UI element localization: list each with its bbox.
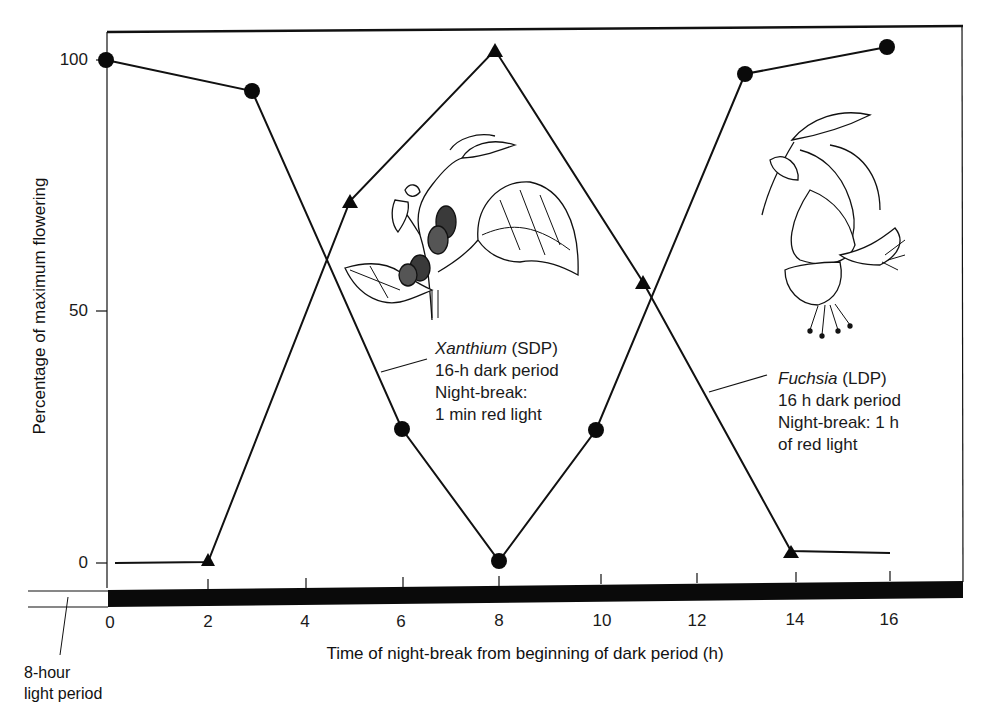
- circle-marker: [394, 421, 410, 437]
- xanthium-dark-period: 16-h dark period: [435, 360, 559, 382]
- fuchsia-markers: [201, 43, 799, 566]
- cocklebur-plant-illustration: [345, 135, 578, 320]
- x-tick-label: 16: [869, 611, 909, 628]
- xanthium-annotation: Xanthium (SDP) 16-h dark period Night-br…: [435, 338, 559, 426]
- circle-marker: [98, 52, 114, 68]
- circle-marker: [588, 422, 604, 438]
- x-tick-label: 12: [677, 612, 717, 629]
- xanthium-markers: [98, 39, 895, 569]
- circle-marker: [737, 66, 753, 82]
- y-axis-ticks: [96, 60, 107, 563]
- fuchsia-type-tag: (LDP): [842, 369, 886, 388]
- y-axis-label: Percentage of maximum flowering: [30, 177, 50, 434]
- x-tick-label: 0: [90, 614, 130, 631]
- light-period-label: 8-hour light period: [24, 662, 102, 704]
- fuchsia-dark-period: 16 h dark period: [778, 390, 901, 412]
- fuchsia-flower-illustration: [762, 113, 905, 338]
- x-tick-label: 14: [775, 611, 815, 628]
- y-tick-label-0: 0: [38, 554, 88, 571]
- xanthium-annotation-pointer: [381, 359, 427, 372]
- xanthium-night-break: Night-break:: [435, 382, 559, 404]
- x-tick-label: 10: [582, 612, 622, 629]
- dark-period-bar: [108, 581, 963, 607]
- xanthium-type-tag: (SDP): [512, 339, 558, 358]
- xanthium-red-light: 1 min red light: [435, 404, 559, 426]
- triangle-marker: [201, 553, 215, 566]
- fuchsia-species-name: Fuchsia: [778, 369, 838, 388]
- light-label-pointer: [60, 597, 68, 655]
- x-tick-label: 2: [188, 613, 228, 630]
- fuchsia-annotation: Fuchsia (LDP) 16 h dark period Night-bre…: [778, 368, 901, 456]
- light-period-label-line1: 8-hour: [24, 662, 102, 683]
- x-tick-label: 4: [285, 613, 325, 630]
- xanthium-species-name: Xanthium: [435, 339, 507, 358]
- x-axis-label: Time of night-break from beginning of da…: [326, 644, 723, 664]
- fuchsia-red-light: of red light: [778, 434, 901, 456]
- circle-marker: [244, 83, 260, 99]
- plot-frame: [107, 26, 963, 588]
- fuchsia-annotation-pointer: [709, 375, 767, 392]
- series-fuchsia-ldp: [115, 43, 890, 566]
- triangle-marker: [487, 43, 503, 57]
- circle-marker: [879, 39, 895, 55]
- circle-marker: [491, 553, 507, 569]
- fuchsia-line: [115, 50, 890, 563]
- triangle-marker: [635, 275, 651, 289]
- x-tick-label: 6: [381, 613, 421, 630]
- y-tick-label-100: 100: [38, 51, 88, 68]
- series-xanthium-sdp: [98, 39, 895, 569]
- x-tick-label: 8: [479, 612, 519, 629]
- xanthium-line: [106, 47, 887, 561]
- fuchsia-night-break: Night-break: 1 h: [778, 412, 901, 434]
- light-period-label-line2: light period: [24, 683, 102, 704]
